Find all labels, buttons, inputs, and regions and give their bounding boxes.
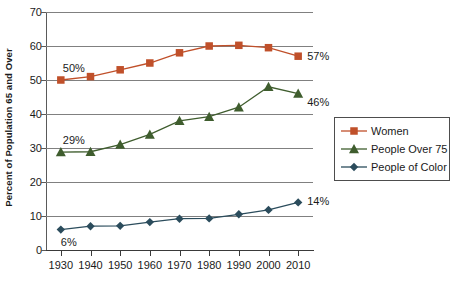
- y-axis-tick-labels: 010203040506070: [14, 0, 42, 283]
- data-point-marker: [87, 73, 95, 81]
- data-point-marker: [294, 52, 302, 60]
- data-point-marker: [145, 129, 155, 138]
- x-axis-tick-label: 1950: [108, 259, 132, 271]
- legend-swatch-square-icon: [340, 124, 368, 138]
- series-people-over-75: [56, 82, 303, 157]
- y-axis-tick: [41, 46, 46, 47]
- y-axis-tick-label: 10: [16, 210, 42, 222]
- x-axis-tick: [209, 251, 210, 256]
- y-axis-tick: [41, 80, 46, 81]
- data-point-marker: [264, 206, 272, 214]
- x-axis-tick-label: 1990: [227, 259, 251, 271]
- data-point-label: 6%: [61, 236, 77, 248]
- data-point-marker: [86, 222, 94, 230]
- chart-container: Percent of Population 65 and Over 010203…: [0, 0, 454, 283]
- y-axis-tick-label: 40: [16, 108, 42, 120]
- x-axis-tick-label: 1930: [49, 259, 73, 271]
- y-axis-tick-label: 0: [16, 244, 42, 256]
- x-axis-tick: [269, 251, 270, 256]
- x-axis-tick: [150, 251, 151, 256]
- x-axis-tick: [120, 251, 121, 256]
- y-axis-tick: [41, 148, 46, 149]
- y-axis-title-text: Percent of Population 65 and Over: [3, 48, 14, 207]
- x-axis-tick-label: 2010: [286, 259, 310, 271]
- series-women: [57, 42, 302, 84]
- legend-item-people-of-color[interactable]: People of Color: [340, 158, 444, 176]
- data-point-marker: [116, 222, 124, 230]
- data-point-marker: [205, 42, 213, 50]
- data-point-marker: [235, 42, 243, 50]
- y-axis-tick-label: 30: [16, 142, 42, 154]
- plot-area: [46, 12, 313, 250]
- chart-legend[interactable]: WomenPeople Over 75People of Color: [334, 117, 450, 181]
- series-people-of-color: [57, 198, 303, 234]
- y-axis-tick: [41, 250, 46, 251]
- y-axis-tick: [41, 216, 46, 217]
- data-point-marker: [265, 44, 273, 52]
- data-point-label: 57%: [307, 50, 329, 62]
- x-axis-tick-label: 1960: [138, 259, 162, 271]
- data-point-marker: [57, 76, 64, 84]
- x-axis-tick: [91, 251, 92, 256]
- x-axis-tick: [61, 251, 62, 256]
- x-axis-tick: [180, 251, 181, 256]
- y-axis-tick: [41, 12, 46, 13]
- data-point-marker: [205, 214, 213, 222]
- series-layer: [46, 12, 313, 250]
- legend-item-label: Women: [368, 125, 409, 137]
- x-axis-tick-label: 1970: [167, 259, 191, 271]
- data-point-marker: [175, 215, 183, 223]
- x-axis-tick: [239, 251, 240, 256]
- data-point-marker: [294, 198, 302, 206]
- data-point-marker: [146, 59, 154, 67]
- data-point-marker: [115, 140, 125, 149]
- data-point-label: 29%: [63, 134, 85, 146]
- x-axis-tick-label: 1980: [197, 259, 221, 271]
- data-point-marker: [234, 102, 244, 111]
- x-axis-tick-label: 1940: [78, 259, 102, 271]
- data-point-marker: [264, 82, 274, 91]
- data-point-label: 46%: [307, 96, 329, 108]
- legend-item-people-over-75[interactable]: People Over 75: [340, 140, 444, 158]
- y-axis-tick: [41, 114, 46, 115]
- legend-item-label: People Over 75: [368, 143, 447, 155]
- y-axis-tick: [41, 182, 46, 183]
- legend-item-label: People of Color: [368, 161, 447, 173]
- y-axis-tick-label: 20: [16, 176, 42, 188]
- data-point-marker: [204, 112, 214, 121]
- legend-item-women[interactable]: Women: [340, 122, 444, 140]
- data-point-marker: [57, 225, 65, 233]
- x-axis-tick-label: 2000: [256, 259, 280, 271]
- legend-swatch-triangle-icon: [340, 142, 368, 156]
- data-point-label: 50%: [63, 62, 85, 74]
- data-point-marker: [146, 218, 154, 226]
- data-point-marker: [235, 210, 243, 218]
- y-axis-tick-label: 60: [16, 40, 42, 52]
- y-axis-tick-label: 50: [16, 74, 42, 86]
- x-axis-tick: [298, 251, 299, 256]
- data-point-marker: [176, 49, 184, 57]
- data-point-marker: [116, 66, 124, 74]
- data-point-label: 14%: [307, 195, 329, 207]
- y-axis-tick-label: 70: [16, 6, 42, 18]
- legend-swatch-diamond-icon: [340, 160, 368, 174]
